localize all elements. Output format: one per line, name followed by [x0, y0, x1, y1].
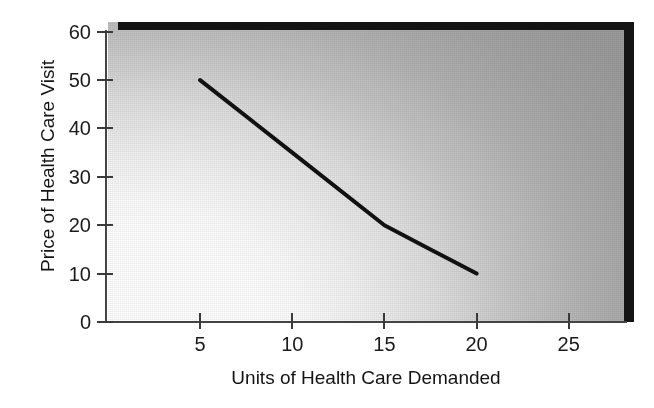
x-axis-tick-mark	[291, 313, 293, 329]
y-axis-tick-mark	[97, 31, 113, 33]
plot-top-border-band	[118, 22, 634, 30]
demand-curve-figure: 0102030405060 510152025 Price of Health …	[0, 0, 654, 408]
x-axis-tick-mark	[568, 313, 570, 329]
y-axis-tick-mark	[97, 273, 113, 275]
y-axis-tick-mark	[97, 224, 113, 226]
x-axis-tick-label: 5	[170, 334, 230, 354]
y-axis-tick-mark	[97, 176, 113, 178]
x-axis-line	[105, 321, 627, 323]
x-axis-tick-label: 15	[354, 334, 414, 354]
x-axis-tick-label: 10	[262, 334, 322, 354]
x-axis-tick-mark	[199, 313, 201, 329]
x-axis-tick-mark	[476, 313, 478, 329]
x-axis-tick-label: 20	[447, 334, 507, 354]
plot-right-border-band	[624, 22, 634, 322]
x-axis-tick-mark	[383, 313, 385, 329]
x-axis-tick-label: 25	[539, 334, 599, 354]
plot-area	[108, 22, 624, 322]
y-axis-tick-mark	[97, 127, 113, 129]
x-axis-label: Units of Health Care Demanded	[105, 367, 627, 389]
y-axis-label: Price of Health Care Visit	[37, 11, 59, 321]
plot-background-gradient	[108, 22, 624, 322]
y-axis-tick-mark	[97, 79, 113, 81]
y-axis-tick-mark	[97, 321, 113, 323]
